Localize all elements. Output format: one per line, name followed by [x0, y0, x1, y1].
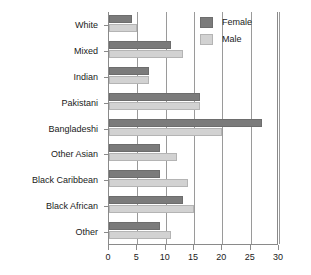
bar-male — [109, 76, 149, 84]
bar-row — [109, 90, 277, 116]
y-axis-label-other-asian: Other Asian — [0, 149, 98, 159]
gridline-30 — [279, 12, 280, 244]
y-axis-label-other: Other — [0, 227, 98, 237]
bar-male — [109, 153, 177, 161]
y-axis-label-mixed: Mixed — [0, 46, 98, 56]
bar-male — [109, 179, 188, 187]
bar-female — [109, 67, 149, 75]
y-axis-category-labels: WhiteMixedIndianPakistaniBangladeshiOthe… — [0, 12, 104, 245]
y-axis-label-pakistani: Pakistani — [0, 98, 98, 108]
bar-rows — [109, 12, 277, 244]
x-tick-label-30: 30 — [266, 252, 290, 263]
bar-female — [109, 41, 171, 49]
legend-label-male: Male — [222, 33, 242, 45]
x-tick-20 — [221, 245, 222, 250]
x-tick-30 — [278, 245, 279, 250]
bar-male — [109, 205, 194, 213]
bar-female — [109, 196, 183, 204]
bar-male — [109, 128, 222, 136]
x-tick-label-5: 5 — [124, 252, 148, 263]
bar-male — [109, 24, 137, 32]
plot-area — [108, 12, 278, 245]
x-tick-25 — [250, 245, 251, 250]
bar-row — [109, 193, 277, 219]
bar-female — [109, 15, 132, 23]
x-tick-5 — [136, 245, 137, 250]
y-axis-label-white: White — [0, 20, 98, 30]
x-tick-label-25: 25 — [238, 252, 262, 263]
bar-row — [109, 141, 277, 167]
bar-female — [109, 222, 160, 230]
y-axis-label-bangladeshi: Bangladeshi — [0, 124, 98, 134]
y-axis-label-black-african: Black African — [0, 201, 98, 211]
bar-female — [109, 93, 200, 101]
y-axis-label-indian: Indian — [0, 72, 98, 82]
x-tick-label-0: 0 — [96, 252, 120, 263]
bar-male — [109, 50, 183, 58]
x-tick-10 — [165, 245, 166, 250]
x-tick-15 — [193, 245, 194, 250]
bar-row — [109, 167, 277, 193]
legend-swatch-female-icon — [200, 17, 213, 28]
legend-label-female: Female — [222, 16, 252, 28]
x-tick-label-10: 10 — [153, 252, 177, 263]
bar-row — [109, 219, 277, 245]
bar-female — [109, 144, 160, 152]
x-tick-label-20: 20 — [209, 252, 233, 263]
x-tick-label-15: 15 — [181, 252, 205, 263]
bar-row — [109, 116, 277, 142]
bar-female — [109, 170, 160, 178]
bar-male — [109, 231, 171, 239]
bar-female — [109, 119, 262, 127]
bar-row — [109, 38, 277, 64]
bar-chart: WhiteMixedIndianPakistaniBangladeshiOthe… — [0, 0, 311, 275]
y-axis-label-black-caribbean: Black Caribbean — [0, 175, 98, 185]
legend-swatch-male-icon — [200, 34, 213, 45]
x-tick-0 — [108, 245, 109, 250]
bar-male — [109, 102, 200, 110]
bar-row — [109, 64, 277, 90]
